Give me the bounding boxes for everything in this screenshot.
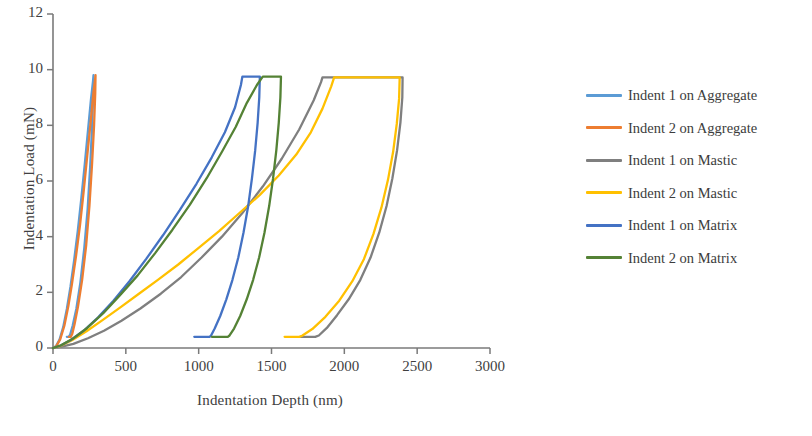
x-tick-label: 3000	[450, 358, 530, 375]
legend-color-swatch	[586, 224, 622, 227]
x-tick-label: 0	[13, 358, 93, 375]
legend-item[interactable]: Indent 1 on Aggregate	[586, 88, 757, 103]
legend-label: Indent 1 on Mastic	[628, 153, 737, 168]
series-line-3	[53, 77, 403, 348]
legend-color-swatch	[586, 159, 622, 162]
legend-item[interactable]: Indent 1 on Mastic	[586, 153, 757, 168]
x-tick-label: 500	[86, 358, 166, 375]
y-tick-label: 12	[3, 4, 43, 21]
legend-label: Indent 2 on Aggregate	[628, 121, 757, 136]
legend-item[interactable]: Indent 2 on Mastic	[586, 186, 757, 201]
series-line-1	[53, 75, 94, 348]
x-tick-label: 2500	[377, 358, 457, 375]
x-tick-label: 1500	[232, 358, 312, 375]
legend-item[interactable]: Indent 2 on Aggregate	[586, 121, 757, 136]
legend-label: Indent 2 on Matrix	[628, 251, 737, 266]
x-axis-title: Indentation Depth (nm)	[0, 392, 540, 409]
x-tick-label: 1000	[159, 358, 239, 375]
legend-color-swatch	[586, 126, 622, 129]
legend-item[interactable]: Indent 2 on Matrix	[586, 251, 757, 266]
data-series	[53, 75, 403, 348]
legend-item[interactable]: Indent 1 on Matrix	[586, 218, 757, 233]
y-axis-title: Indentation Load (mN)	[21, 64, 38, 294]
chart-legend: Indent 1 on AggregateIndent 2 on Aggrega…	[586, 88, 757, 265]
legend-color-swatch	[586, 191, 622, 194]
series-line-4	[53, 77, 400, 348]
indentation-load-depth-chart: 050010001500200025003000024681012 Indent…	[0, 0, 812, 436]
legend-label: Indent 1 on Aggregate	[628, 88, 757, 103]
y-tick-label: 0	[3, 338, 43, 355]
legend-label: Indent 1 on Matrix	[628, 218, 737, 233]
legend-color-swatch	[586, 94, 622, 97]
legend-label: Indent 2 on Mastic	[628, 186, 737, 201]
series-line-5	[53, 77, 260, 348]
legend-color-swatch	[586, 256, 622, 259]
x-tick-label: 2000	[304, 358, 384, 375]
